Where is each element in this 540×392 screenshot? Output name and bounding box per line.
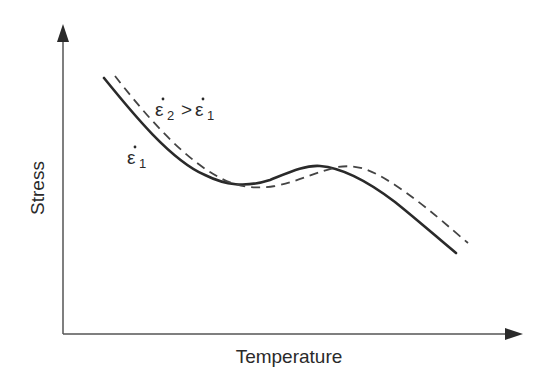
annotation-curve-1: ε 1 [127, 146, 146, 171]
y-axis-label: Stress [27, 161, 48, 215]
label-greater-than: > [181, 99, 192, 120]
x-axis-arrow-icon [505, 328, 523, 340]
y-axis-arrow-icon [57, 24, 69, 42]
stress-temperature-diagram: ε 2 > ε 1 ε 1 Temperature Stress [0, 0, 540, 392]
label-sub-2: 2 [167, 108, 174, 123]
x-axis-label: Temperature [236, 346, 343, 367]
label-epsilon-1b: ε [195, 99, 204, 120]
label-epsilon-1: ε [127, 147, 136, 168]
label-sub-1: 1 [139, 156, 146, 171]
annotation-curve-2: ε 2 > ε 1 [155, 98, 214, 123]
label-sub-1b: 1 [207, 108, 214, 123]
label-epsilon-2: ε [155, 99, 164, 120]
